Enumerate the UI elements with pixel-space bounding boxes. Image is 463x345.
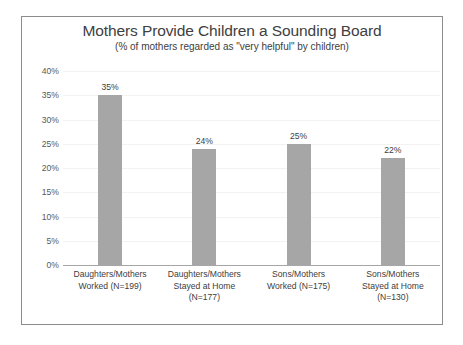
bar[interactable] [98,95,122,265]
bar-value-label: 22% [384,145,401,155]
bar-slot: 22% [346,71,440,265]
x-axis-category-label-line: Daughters/Mothers [63,269,157,281]
bar[interactable] [287,144,311,265]
x-axis-category-label-line: Stayed at Home [157,281,251,293]
plot-area: 35%24%25%22% [63,71,440,265]
y-axis-tick-label: 0% [23,260,59,270]
x-axis-line [63,265,440,266]
plot-wrapper: 40%35%30%25%20%15%10%5%0% 35%24%25%22% D… [22,17,442,324]
y-axis-tick-label: 20% [23,163,59,173]
y-axis-tick-label: 25% [23,139,59,149]
y-axis-tick-label: 10% [23,212,59,222]
y-axis-tick-label: 40% [23,66,59,76]
x-axis-category-label: Sons/MothersStayed at Home(N=130) [346,269,440,304]
bar[interactable] [381,158,405,265]
x-axis-category-label-line: Sons/Mothers [346,269,440,281]
bar[interactable] [192,149,216,265]
bar-slot: 24% [157,71,251,265]
chart-container: Mothers Provide Children a Sounding Boar… [21,16,443,325]
x-axis-category-label: Daughters/MothersWorked (N=199) [63,269,157,292]
x-axis-category-label: Daughters/MothersStayed at Home(N=177) [157,269,251,304]
x-axis-category-label-line: Daughters/Mothers [157,269,251,281]
bar-value-label: 24% [196,136,213,146]
y-axis-tick-label: 15% [23,187,59,197]
x-axis-category-label-line: Worked (N=199) [63,281,157,293]
y-axis-tick-label: 5% [23,236,59,246]
y-axis-tick-label: 35% [23,90,59,100]
bar-slot: 35% [63,71,157,265]
x-axis: Daughters/MothersWorked (N=199)Daughters… [63,269,440,319]
x-axis-category-label-line: (N=177) [157,292,251,304]
y-axis: 40%35%30%25%20%15%10%5%0% [22,71,59,265]
x-axis-category-label-line: (N=130) [346,292,440,304]
y-axis-tick-label: 30% [23,115,59,125]
x-axis-category-label: Sons/MothersWorked (N=175) [252,269,346,292]
bar-slot: 25% [252,71,346,265]
x-axis-category-label-line: Sons/Mothers [252,269,346,281]
x-axis-category-label-line: Worked (N=175) [252,281,346,293]
bar-value-label: 35% [102,82,119,92]
bar-value-label: 25% [290,131,307,141]
x-axis-category-label-line: Stayed at Home [346,281,440,293]
